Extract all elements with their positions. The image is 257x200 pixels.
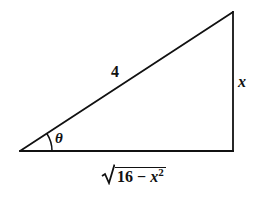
hypotenuse-side (20, 12, 233, 151)
radicand-exponent: 2 (158, 166, 164, 178)
radicand-operator: − (137, 168, 146, 185)
radicand-expression: 16 − x2 (115, 167, 166, 185)
opposite-side-label: x (238, 74, 246, 90)
angle-arc (47, 134, 52, 152)
adjacent-side-label: 16 − x2 (101, 161, 166, 185)
radicand-variable: x (150, 168, 158, 185)
square-root-icon (101, 163, 115, 185)
radicand-constant: 16 (117, 168, 133, 185)
angle-theta-label: θ (55, 131, 63, 146)
hypotenuse-label: 4 (111, 64, 119, 80)
